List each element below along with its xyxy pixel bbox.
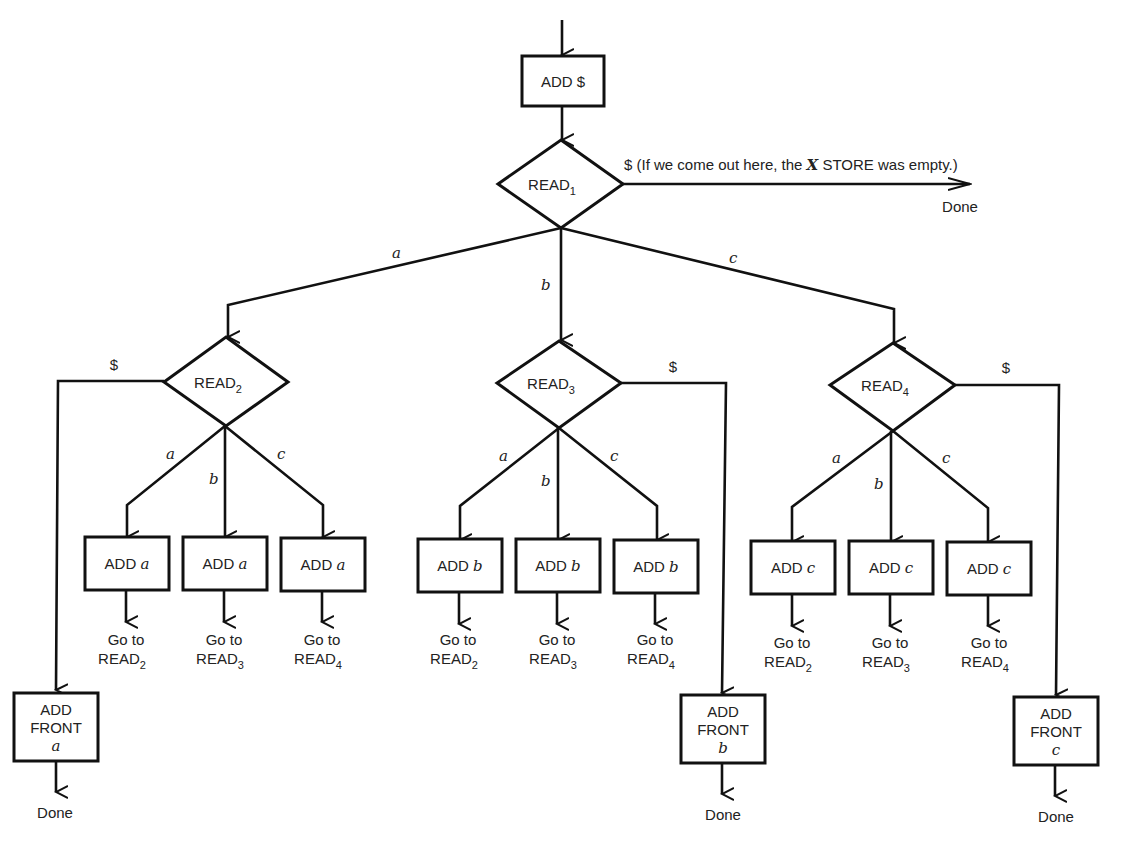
svg-text:a: a: [166, 445, 175, 463]
read1-node: READ1: [498, 140, 623, 228]
read2-subscript: 2: [236, 383, 242, 395]
read4-child-2: ADD c Go to READ3: [849, 541, 933, 674]
svg-text:c: c: [942, 449, 951, 467]
read1-branch-b: b: [541, 228, 561, 340]
read3-child-3: ADD b Go to READ4: [614, 540, 698, 671]
read1-dollar-note: $ (If we come out here, the X STORE was …: [624, 156, 958, 174]
read4-branches: a b c: [792, 431, 988, 542]
svg-text:FRONT: FRONT: [697, 721, 749, 738]
read3-subscript: 3: [569, 384, 575, 396]
svg-text:READ4: READ4: [294, 650, 342, 671]
svg-text:Go to: Go to: [440, 631, 477, 648]
svg-text:Go to: Go to: [539, 631, 576, 648]
svg-text:a: a: [832, 449, 841, 467]
svg-text:FRONT: FRONT: [1030, 723, 1082, 740]
branch-label-b: b: [541, 276, 551, 294]
read2-child-1: ADD a Go to READ2: [85, 537, 169, 671]
svg-text:READ2: READ2: [98, 650, 146, 671]
read3-branches: a b c: [460, 428, 657, 540]
svg-text:READ2: READ2: [430, 650, 478, 671]
read2-add-front: ADD FRONT a Done: [14, 693, 98, 821]
svg-text:READ3: READ3: [196, 650, 244, 671]
flowchart: ADD $ READ1 $ (If we come out here, the …: [0, 0, 1128, 844]
svg-text:ADD b: ADD b: [437, 557, 482, 575]
svg-text:ADD a: ADD a: [301, 556, 346, 574]
read4-node: READ4: [830, 343, 955, 431]
svg-text:ADD c: ADD c: [967, 560, 1012, 578]
read1-branch-c: c: [561, 228, 894, 343]
dollar-label: $: [110, 356, 119, 373]
svg-text:Go to: Go to: [774, 634, 811, 651]
svg-text:c: c: [1052, 741, 1061, 759]
svg-text:b: b: [209, 470, 219, 488]
svg-text:Go to: Go to: [304, 631, 341, 648]
read1-dollar-exit: $ (If we come out here, the X STORE was …: [623, 156, 978, 215]
read3-node: READ3: [497, 341, 621, 428]
done-label: Done: [705, 806, 741, 823]
done-label: Done: [1038, 808, 1074, 825]
svg-text:READ2: READ2: [764, 653, 812, 674]
read4-subscript: 4: [903, 386, 909, 398]
branch-label-a: a: [392, 244, 401, 262]
svg-text:ADD b: ADD b: [535, 557, 580, 575]
read3-child-2: ADD b Go to READ3: [516, 539, 600, 671]
svg-text:ADD: ADD: [707, 703, 739, 720]
svg-text:ADD a: ADD a: [105, 555, 150, 573]
read3-name: READ: [527, 375, 569, 392]
svg-text:Go to: Go to: [206, 631, 243, 648]
svg-text:a: a: [499, 447, 508, 465]
read4-add-front: ADD FRONT c Done: [1014, 697, 1098, 825]
svg-text:b: b: [541, 472, 551, 490]
svg-text:c: c: [277, 445, 286, 463]
svg-text:a: a: [52, 737, 61, 755]
read1-done-label: Done: [942, 198, 978, 215]
dollar-label: $: [1002, 359, 1011, 376]
svg-text:READ4: READ4: [627, 650, 675, 671]
read3-child-1: ADD b Go to READ2: [418, 539, 502, 671]
svg-text:ADD: ADD: [1040, 705, 1072, 722]
read2-child-2: ADD a Go to READ3: [183, 537, 267, 671]
svg-text:b: b: [718, 739, 728, 757]
svg-text:ADD c: ADD c: [771, 559, 816, 577]
svg-text:Go to: Go to: [971, 634, 1008, 651]
branch-label-c: c: [729, 249, 738, 267]
svg-text:Go to: Go to: [108, 631, 145, 648]
add-dollar-node: ADD $: [522, 56, 604, 106]
read3-add-front: ADD FRONT b Done: [681, 695, 765, 823]
add-dollar-label: ADD $: [541, 73, 586, 90]
svg-text:READ3: READ3: [529, 650, 577, 671]
read1-name: READ: [528, 176, 570, 193]
svg-text:READ3: READ3: [862, 653, 910, 674]
read4-child-1: ADD c Go to READ2: [751, 541, 835, 674]
svg-text:ADD: ADD: [40, 701, 72, 718]
svg-text:b: b: [874, 475, 884, 493]
read1-branch-a: a: [228, 228, 561, 337]
svg-text:Go to: Go to: [872, 634, 909, 651]
read2-child-3: ADD a Go to READ4: [281, 538, 365, 671]
read4-name: READ: [861, 377, 903, 394]
svg-text:ADD c: ADD c: [869, 559, 914, 577]
read1-subscript: 1: [570, 185, 576, 197]
read2-node: READ2: [164, 337, 288, 426]
read2-branches: a b c: [127, 426, 323, 537]
svg-text:ADD a: ADD a: [203, 555, 248, 573]
svg-text:c: c: [610, 447, 619, 465]
svg-text:FRONT: FRONT: [30, 719, 82, 736]
svg-text:Go to: Go to: [637, 631, 674, 648]
read4-child-3: ADD c Go to READ4: [947, 542, 1031, 674]
done-label: Done: [37, 804, 73, 821]
read2-name: READ: [194, 374, 236, 391]
dollar-label: $: [669, 358, 678, 375]
svg-text:READ4: READ4: [961, 653, 1009, 674]
svg-text:ADD b: ADD b: [633, 558, 678, 576]
